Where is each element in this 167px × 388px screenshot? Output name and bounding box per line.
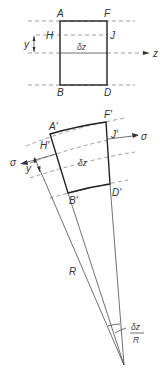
label-sigma-right: σ [141, 131, 148, 142]
label-angle-numerator: δz [131, 322, 141, 332]
stress-right-arrow-icon [132, 133, 139, 138]
stress-left-line [24, 154, 56, 163]
label-D: D [104, 87, 111, 98]
y-arrow-up-icon [33, 36, 36, 41]
label-H-prime: H' [40, 140, 50, 151]
y-arrow-down-icon [33, 47, 36, 52]
label-J-prime: J' [110, 129, 119, 140]
undeformed-element: A F H J y δz z B D [23, 8, 158, 98]
label-B: B [57, 87, 64, 98]
bent-element: A' F' H' J' y δz σ σ B' D' R δz R [10, 109, 148, 365]
label-y-bent: y [25, 163, 32, 174]
label-dz-bent: δz [78, 158, 88, 168]
label-D-prime: D' [112, 187, 122, 198]
label-z: z [152, 48, 158, 59]
label-J: J [109, 30, 116, 41]
label-A: A [56, 8, 64, 19]
angle-leader [115, 328, 126, 333]
label-B-prime: B' [69, 195, 79, 206]
label-R: R [69, 266, 76, 277]
y-arrow-down-bent-icon [37, 166, 41, 172]
angle-arc [108, 324, 120, 326]
label-dz: δz [77, 42, 87, 52]
y-arrow-up-bent-icon [34, 157, 38, 163]
beam-bending-diagram: A F H J y δz z B D A' F' [0, 0, 167, 388]
label-F: F [104, 8, 111, 19]
label-H: H [46, 30, 54, 41]
z-axis-arrow-icon [143, 51, 150, 55]
label-angle-denominator: R [133, 335, 139, 345]
label-y: y [23, 39, 30, 50]
radius-line-left [68, 193, 124, 365]
label-A-prime: A' [48, 121, 59, 132]
label-F-prime: F' [104, 109, 113, 120]
label-sigma-left: σ [10, 157, 17, 168]
